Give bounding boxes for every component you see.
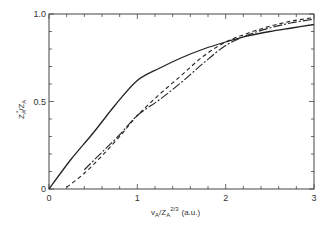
x-tick-label: 3 (311, 193, 316, 203)
series-solid-line (49, 25, 314, 190)
x-axis-label: vA/ZA2/3(a.u.) (151, 206, 200, 218)
series-short-dash-line (67, 18, 314, 188)
y-axis-label: ZA*/ZA (15, 100, 27, 119)
svg-text:ZA*/ZA: ZA*/ZA (15, 100, 27, 119)
plot-frame (49, 14, 314, 189)
y-tick-label: 0 (41, 184, 46, 194)
series-long-dash-line (84, 19, 314, 170)
svg-text:vA/ZA2/3(a.u.): vA/ZA2/3(a.u.) (151, 206, 200, 218)
chart: 012300.51.0 vA/ZA2/3(a.u.) ZA*/ZA (0, 0, 329, 228)
y-tick-label: 1.0 (33, 9, 46, 19)
y-tick-label: 0.5 (33, 97, 46, 107)
x-tick-label: 0 (46, 193, 51, 203)
x-tick-label: 2 (223, 193, 228, 203)
tick-labels: 012300.51.0 (33, 9, 316, 203)
x-tick-label: 1 (135, 193, 140, 203)
axis-ticks (49, 14, 314, 189)
data-series (49, 18, 314, 190)
